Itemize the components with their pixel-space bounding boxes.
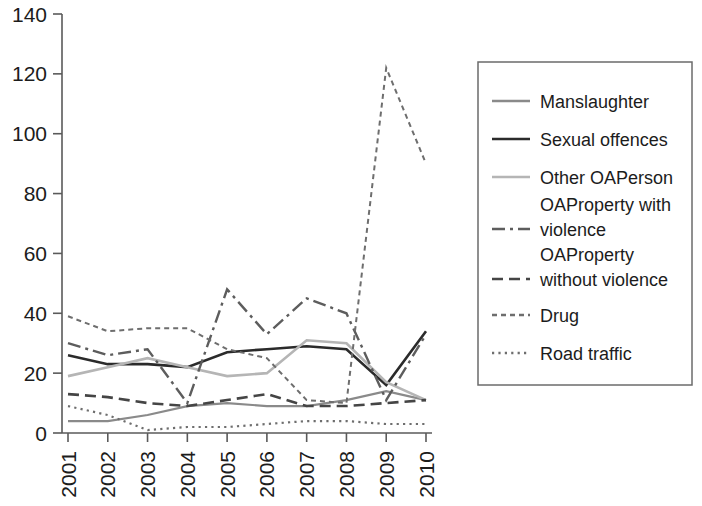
x-tick-label: 2001 — [57, 451, 80, 498]
legend-label: Other OAPerson — [540, 168, 673, 188]
x-tick-label: 2006 — [255, 451, 278, 498]
chart-canvas: 020406080100120140 200120022003200420052… — [0, 0, 702, 506]
x-tick-label: 2010 — [415, 451, 438, 498]
legend-label: Sexual offences — [540, 130, 668, 150]
legend-label: Manslaughter — [540, 92, 649, 112]
legend-label: Drug — [540, 306, 579, 326]
x-axis: 2001200220032004200520062007200820092010 — [57, 433, 438, 498]
legend-label: without violence — [539, 270, 668, 290]
series-line-oaproperty-with-violence — [68, 289, 426, 403]
y-tick-label: 20 — [24, 362, 47, 385]
x-tick-label: 2007 — [295, 451, 318, 498]
x-tick-label: 2005 — [216, 451, 239, 498]
y-tick-label: 100 — [12, 122, 47, 145]
x-tick-label: 2009 — [375, 451, 398, 498]
legend-label: Road traffic — [540, 344, 632, 364]
y-tick-label: 40 — [24, 302, 47, 325]
x-tick-label: 2003 — [136, 451, 159, 498]
legend-label: OAProperty with — [540, 195, 671, 215]
x-tick-label: 2002 — [96, 451, 119, 498]
line-chart: 020406080100120140 200120022003200420052… — [0, 0, 702, 506]
x-tick-label: 2008 — [335, 451, 358, 498]
legend-label: violence — [540, 220, 606, 240]
y-tick-label: 140 — [12, 3, 47, 26]
series-line-sexual-offences — [68, 331, 426, 385]
legend-label: OAProperty — [540, 245, 634, 265]
series-line-manslaughter — [68, 391, 426, 421]
x-tick-label: 2004 — [176, 451, 199, 498]
y-axis: 020406080100120140 — [12, 3, 62, 445]
y-tick-label: 0 — [35, 422, 47, 445]
y-tick-label: 80 — [24, 182, 47, 205]
chart-legend: ManslaughterSexual offencesOther OAPerso… — [478, 62, 692, 385]
series-lines — [68, 68, 426, 430]
y-tick-label: 120 — [12, 62, 47, 85]
y-tick-label: 60 — [24, 242, 47, 265]
